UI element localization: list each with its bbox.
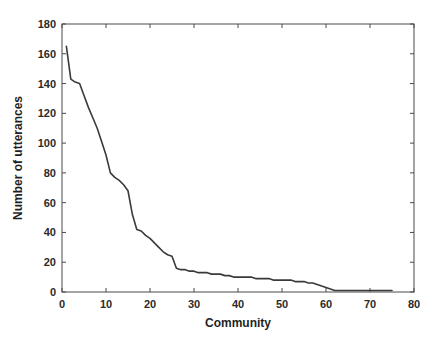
plot-area-border [62, 24, 414, 292]
y-tick-label: 120 [38, 107, 56, 119]
x-tick-label: 70 [364, 298, 376, 310]
x-tick-label: 20 [144, 298, 156, 310]
x-axis-title: Community [205, 316, 271, 330]
x-tick-label: 40 [232, 298, 244, 310]
x-tick-label: 60 [320, 298, 332, 310]
chart-svg: 020406080100120140160180 010203040506070… [0, 0, 437, 341]
y-tick-label: 40 [44, 226, 56, 238]
y-tick-label: 60 [44, 197, 56, 209]
y-tick-label: 20 [44, 256, 56, 268]
x-tick-label: 50 [276, 298, 288, 310]
figure-canvas: 020406080100120140160180 010203040506070… [0, 0, 437, 341]
y-tick-label: 160 [38, 48, 56, 60]
x-tick-label: 80 [408, 298, 420, 310]
y-tick-label: 140 [38, 78, 56, 90]
x-tick-label: 10 [100, 298, 112, 310]
y-tick-label: 180 [38, 18, 56, 30]
y-tick-label: 0 [50, 286, 56, 298]
y-tick-label: 80 [44, 167, 56, 179]
x-tick-label: 30 [188, 298, 200, 310]
y-axis-title: Number of utterances [11, 96, 25, 220]
x-tick-label: 0 [59, 298, 65, 310]
y-tick-label: 100 [38, 137, 56, 149]
